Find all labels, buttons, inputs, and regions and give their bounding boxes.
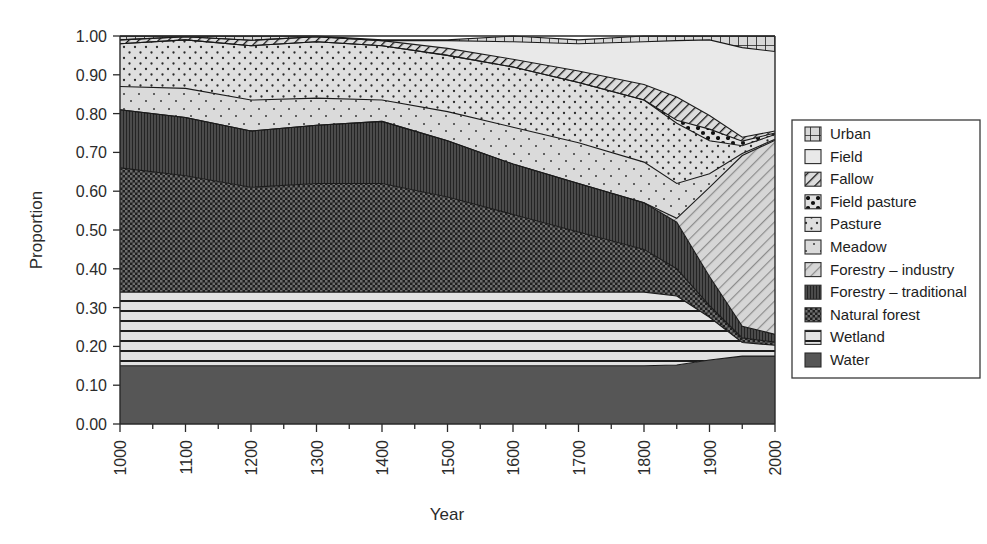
- legend-label: Wetland: [830, 328, 885, 345]
- x-axis-label: Year: [430, 505, 465, 524]
- figure-root: 0.000.100.200.300.400.500.600.700.800.90…: [0, 0, 987, 544]
- legend-label: Natural forest: [830, 306, 921, 323]
- stacked-area-chart: 0.000.100.200.300.400.500.600.700.800.90…: [0, 0, 987, 544]
- legend-swatch-pasture: [805, 217, 821, 231]
- legend-label: Field pasture: [830, 193, 917, 210]
- y-tick-label: 0.70: [76, 144, 107, 161]
- y-tick-label: 1.00: [76, 28, 107, 45]
- y-tick-label: 0.80: [76, 106, 107, 123]
- legend-label: Forestry – traditional: [830, 283, 967, 300]
- y-axis-label: Proportion: [27, 191, 46, 269]
- x-tick-label: 1400: [374, 440, 391, 476]
- legend-swatch-field-pasture: [805, 195, 821, 209]
- legend-swatch-meadow: [805, 240, 821, 254]
- x-tick-label: 1600: [505, 440, 522, 476]
- x-tick-label: 1700: [571, 440, 588, 476]
- x-tick-label: 1000: [112, 440, 129, 476]
- y-tick-label: 0.40: [76, 261, 107, 278]
- y-tick-label: 0.50: [76, 222, 107, 239]
- legend-swatch-forestry-traditional: [805, 285, 821, 299]
- y-tick-label: 0.20: [76, 338, 107, 355]
- y-tick-label: 0.10: [76, 377, 107, 394]
- y-axis-ticks: 0.000.100.200.300.400.500.600.700.800.90…: [76, 28, 120, 433]
- legend-swatch-urban: [805, 127, 821, 141]
- legend-swatch-fallow: [805, 172, 821, 186]
- x-tick-label: 1300: [309, 440, 326, 476]
- legend-swatch-water: [805, 353, 821, 367]
- y-tick-label: 0.60: [76, 183, 107, 200]
- legend-label: Forestry – industry: [830, 261, 955, 278]
- legend-label: Fallow: [830, 170, 874, 187]
- x-tick-label: 1800: [636, 440, 653, 476]
- legend-label: Urban: [830, 125, 871, 142]
- legend-swatch-natural-forest: [805, 308, 821, 322]
- x-tick-label: 1100: [178, 440, 195, 475]
- x-axis-ticks: 1000110012001300140015001600170018001900…: [112, 424, 784, 476]
- area-band-wetland: [120, 292, 775, 366]
- legend-label: Pasture: [830, 215, 882, 232]
- legend-swatch-forestry-industry: [805, 263, 821, 277]
- x-tick-label: 1200: [243, 440, 260, 476]
- legend-swatch-wetland: [805, 330, 821, 344]
- legend-label: Meadow: [830, 238, 887, 255]
- x-tick-label: 1900: [702, 440, 719, 476]
- legend-swatch-field: [805, 150, 821, 164]
- y-tick-label: 0.00: [76, 416, 107, 433]
- x-tick-label: 2000: [767, 440, 784, 476]
- legend-label: Field: [830, 148, 863, 165]
- y-tick-label: 0.30: [76, 300, 107, 317]
- y-tick-label: 0.90: [76, 67, 107, 84]
- legend-label: Water: [830, 351, 869, 368]
- x-tick-label: 1500: [440, 440, 457, 476]
